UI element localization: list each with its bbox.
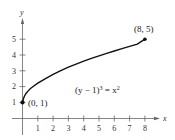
point-start bbox=[20, 100, 24, 104]
point-end bbox=[143, 37, 147, 41]
point-start-label: (0, 1) bbox=[28, 98, 48, 108]
y-axis-label: y bbox=[19, 8, 24, 17]
svg-text:5: 5 bbox=[12, 35, 16, 44]
x-axis-arrow-icon bbox=[154, 117, 160, 120]
svg-text:7: 7 bbox=[128, 124, 132, 133]
svg-text:4: 4 bbox=[12, 51, 16, 60]
svg-text:8: 8 bbox=[143, 124, 147, 133]
svg-text:1: 1 bbox=[12, 98, 16, 107]
svg-text:3: 3 bbox=[66, 124, 70, 133]
x-axis-label: x bbox=[162, 114, 167, 123]
svg-text:6: 6 bbox=[112, 124, 116, 133]
point-end-label: (8, 5) bbox=[134, 24, 154, 34]
svg-text:2: 2 bbox=[12, 82, 16, 91]
y-tick-labels: 1 2 3 4 5 bbox=[12, 35, 16, 107]
svg-text:3: 3 bbox=[12, 67, 16, 76]
y-axis-arrow-icon bbox=[21, 18, 24, 24]
chart-canvas: y x 1 2 3 4 5 6 7 8 1 2 3 4 5 bbox=[0, 0, 175, 140]
svg-text:2: 2 bbox=[51, 124, 55, 133]
equation-label: (y − 1)3 = x2 bbox=[75, 85, 120, 96]
svg-text:1: 1 bbox=[36, 124, 40, 133]
svg-text:4: 4 bbox=[82, 124, 86, 133]
svg-text:5: 5 bbox=[97, 124, 101, 133]
x-tick-labels: 1 2 3 4 5 6 7 8 bbox=[36, 124, 147, 133]
